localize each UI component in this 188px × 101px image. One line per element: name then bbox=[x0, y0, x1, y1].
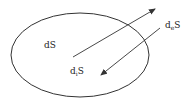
label-external-entropy: deS bbox=[165, 20, 181, 31]
entropy-diagram: dS diS deS bbox=[0, 0, 188, 101]
label-total-entropy: dS bbox=[44, 40, 56, 50]
outward-arrow bbox=[73, 9, 155, 57]
system-boundary bbox=[11, 13, 149, 97]
label-internal-entropy: diS bbox=[70, 66, 84, 77]
